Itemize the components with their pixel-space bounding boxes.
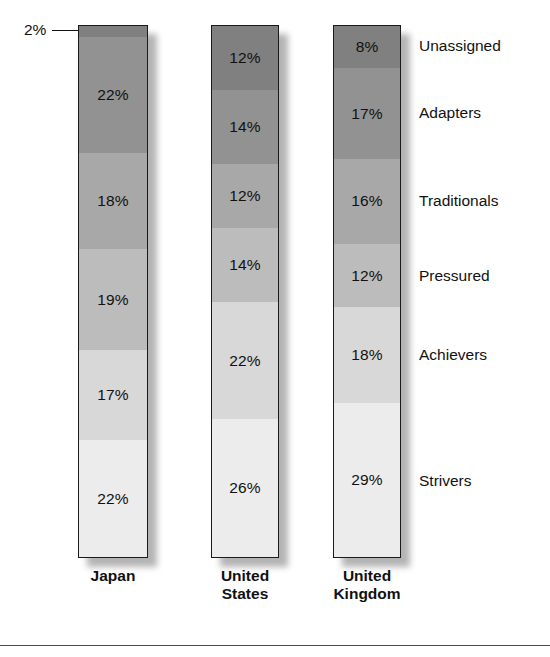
legend-item-adapters[interactable]: Adapters bbox=[419, 105, 481, 121]
bar-segment-strivers[interactable]: 26% bbox=[212, 419, 278, 557]
segment-value-label: 19% bbox=[97, 292, 128, 308]
category-label-line1: United bbox=[317, 567, 417, 585]
segment-value-label: 22% bbox=[97, 491, 128, 507]
bar-column-japan[interactable]: 2%22%18%19%17%22% bbox=[78, 25, 148, 558]
segment-value-label: 17% bbox=[97, 387, 128, 403]
legend-item-unassigned[interactable]: Unassigned bbox=[419, 38, 501, 54]
bar-segment-strivers[interactable]: 22% bbox=[79, 440, 147, 557]
segment-value-label: 12% bbox=[229, 50, 260, 66]
category-label-japan: Japan bbox=[63, 567, 163, 585]
bar-column-united-kingdom[interactable]: 8%17%16%12%18%29% bbox=[333, 25, 401, 558]
bar-segment-traditionals[interactable]: 16% bbox=[334, 159, 400, 244]
segment-value-label: 22% bbox=[229, 353, 260, 369]
bar-segment-strivers[interactable]: 29% bbox=[334, 403, 400, 557]
category-label-line1: Japan bbox=[63, 567, 163, 585]
bar-segment-traditionals[interactable]: 12% bbox=[212, 164, 278, 228]
bottom-divider-rule bbox=[0, 645, 550, 646]
bar-segment-achievers[interactable]: 17% bbox=[79, 350, 147, 440]
segment-value-label: 18% bbox=[97, 193, 128, 209]
category-label-line2: States bbox=[195, 585, 295, 603]
bar-segment-achievers[interactable]: 22% bbox=[212, 302, 278, 419]
segment-value-label: 14% bbox=[229, 257, 260, 273]
segment-value-label: 16% bbox=[351, 193, 382, 209]
segment-value-label: 17% bbox=[351, 106, 382, 122]
segment-value-label: 22% bbox=[97, 87, 128, 103]
category-label-line1: United bbox=[195, 567, 295, 585]
bar-segment-adapters[interactable]: 14% bbox=[212, 90, 278, 164]
bar-column-united-states[interactable]: 12%14%12%14%22%26% bbox=[211, 25, 279, 558]
segment-value-label: 12% bbox=[351, 268, 382, 284]
bar-segment-pressured[interactable]: 19% bbox=[79, 249, 147, 350]
callout-label-2-percent: 2% bbox=[24, 22, 46, 38]
category-label-united-states: United States bbox=[195, 567, 295, 603]
segment-value-label: 29% bbox=[351, 472, 382, 488]
segment-value-label: 12% bbox=[229, 188, 260, 204]
bar-segment-pressured[interactable]: 12% bbox=[334, 244, 400, 308]
bar-stack-united-kingdom: 8%17%16%12%18%29% bbox=[333, 25, 401, 558]
bar-segment-adapters[interactable]: 22% bbox=[79, 37, 147, 154]
category-label-line2: Kingdom bbox=[317, 585, 417, 603]
legend-item-pressured[interactable]: Pressured bbox=[419, 268, 490, 284]
bar-stack-japan: 2%22%18%19%17%22% bbox=[78, 25, 148, 558]
bar-segment-unassigned[interactable]: 8% bbox=[334, 26, 400, 68]
bar-segment-unassigned[interactable]: 2% bbox=[79, 26, 147, 37]
bar-segment-pressured[interactable]: 14% bbox=[212, 228, 278, 302]
bar-segment-achievers[interactable]: 18% bbox=[334, 307, 400, 403]
segment-value-label: 26% bbox=[229, 480, 260, 496]
bar-segment-adapters[interactable]: 17% bbox=[334, 68, 400, 158]
segment-value-label: 8% bbox=[356, 39, 379, 55]
stacked-bar-chart: 2%22%18%19%17%22% 12%14%12%14%22%26% 8%1… bbox=[0, 0, 550, 657]
legend-item-strivers[interactable]: Strivers bbox=[419, 473, 472, 489]
bar-segment-traditionals[interactable]: 18% bbox=[79, 153, 147, 249]
legend-item-achievers[interactable]: Achievers bbox=[419, 347, 487, 363]
segment-value-label: 14% bbox=[229, 119, 260, 135]
bar-segment-unassigned[interactable]: 12% bbox=[212, 26, 278, 90]
bar-stack-united-states: 12%14%12%14%22%26% bbox=[211, 25, 279, 558]
segment-value-label: 18% bbox=[351, 347, 382, 363]
legend-item-traditionals[interactable]: Traditionals bbox=[419, 193, 499, 209]
category-label-united-kingdom: United Kingdom bbox=[317, 567, 417, 603]
